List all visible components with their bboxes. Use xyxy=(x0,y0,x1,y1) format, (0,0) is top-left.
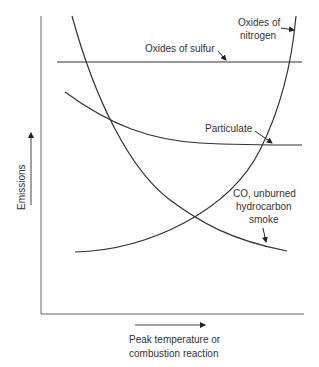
particulate-pointer-icon xyxy=(255,131,272,143)
sox-pointer-icon xyxy=(218,51,226,60)
co-label-1: CO, unburned xyxy=(233,188,296,199)
co-pointer-icon xyxy=(263,228,266,242)
x-axis-label-1: Peak temperature or xyxy=(129,334,221,345)
emissions-diagram: Emissions Peak temperature or combustion… xyxy=(0,0,319,367)
co-label-3: smoke xyxy=(249,214,279,225)
nox-pointer-icon xyxy=(281,28,294,30)
sox-label: Oxides of sulfur xyxy=(145,43,215,54)
x-axis-label-2: combustion reaction xyxy=(129,348,219,359)
nox-label-2: nitrogen xyxy=(240,30,276,41)
particulate-label: Particulate xyxy=(205,123,253,134)
nox-label-1: Oxides of xyxy=(238,17,280,28)
y-axis-label: Emissions xyxy=(16,164,27,210)
co-label-2: hydrocarbon xyxy=(236,201,292,212)
